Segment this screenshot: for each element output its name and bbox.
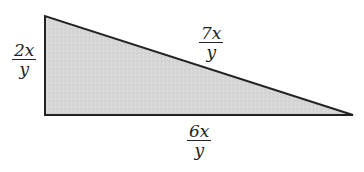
hypotenuse-denominator: y — [206, 43, 216, 61]
bottom-side-label: 6x y — [187, 123, 211, 159]
hypotenuse-numerator: 7x — [199, 25, 223, 43]
hypotenuse-label: 7x y — [199, 25, 223, 61]
triangle-diagram — [0, 0, 364, 172]
bottom-side-denominator: y — [194, 141, 204, 159]
bottom-side-numerator: 6x — [187, 123, 211, 141]
left-side-label: 2x y — [12, 42, 36, 78]
left-side-numerator: 2x — [12, 42, 36, 60]
left-side-denominator: y — [19, 60, 29, 78]
